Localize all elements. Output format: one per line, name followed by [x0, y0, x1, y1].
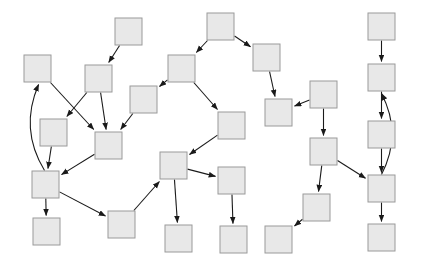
graph-edge: [338, 160, 366, 178]
graph-edge: [232, 195, 233, 224]
graph-edge: [196, 41, 207, 53]
graph-node[interactable]: [218, 112, 245, 139]
graph-node[interactable]: [368, 121, 395, 148]
graph-node[interactable]: [220, 226, 247, 253]
graph-node[interactable]: [368, 13, 395, 40]
graph-edge: [121, 114, 133, 130]
graph-edge: [101, 93, 107, 130]
graph-node[interactable]: [218, 167, 245, 194]
graph-diagram-canvas: [0, 0, 424, 265]
graph-node[interactable]: [130, 86, 157, 113]
graph-node[interactable]: [265, 226, 292, 253]
graph-node[interactable]: [368, 175, 395, 202]
graph-node[interactable]: [32, 171, 59, 198]
edges-layer: [30, 36, 392, 226]
graph-node[interactable]: [368, 224, 395, 251]
graph-node[interactable]: [108, 211, 135, 238]
graph-node[interactable]: [368, 64, 395, 91]
graph-edge: [190, 135, 218, 154]
graph-edge: [48, 147, 51, 169]
graph-node[interactable]: [168, 55, 195, 82]
graph-node[interactable]: [265, 99, 292, 126]
graph-edge: [134, 182, 160, 211]
graph-node[interactable]: [85, 65, 112, 92]
graph-edge: [109, 46, 120, 63]
graph-node[interactable]: [95, 132, 122, 159]
graph-node[interactable]: [303, 194, 330, 221]
graph-node[interactable]: [160, 152, 187, 179]
graph-node[interactable]: [165, 225, 192, 252]
graph-node[interactable]: [310, 138, 337, 165]
graph-edge: [295, 219, 303, 226]
graph-node[interactable]: [310, 81, 337, 108]
graph-edge: [194, 83, 218, 110]
graph-edge: [270, 72, 275, 97]
graph-node[interactable]: [33, 218, 60, 245]
graph-edge: [188, 169, 216, 176]
graph-edge: [62, 154, 95, 174]
graph-edge: [67, 93, 87, 117]
graph-edge: [319, 166, 322, 192]
graph-edge: [174, 180, 177, 223]
graph-node[interactable]: [115, 18, 142, 45]
graph-edge: [295, 100, 310, 106]
graph-edge: [160, 80, 168, 87]
graph-svg: [0, 0, 424, 265]
graph-node[interactable]: [207, 13, 234, 40]
graph-edge: [235, 36, 251, 47]
graph-node[interactable]: [40, 119, 67, 146]
graph-node[interactable]: [253, 44, 280, 71]
nodes-layer: [24, 13, 395, 253]
graph-edge: [60, 192, 106, 216]
graph-node[interactable]: [24, 55, 51, 82]
